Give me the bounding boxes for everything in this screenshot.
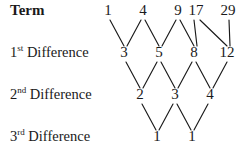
connector-line — [142, 104, 156, 130]
row-label-suffix: Difference — [23, 44, 88, 60]
connector-line — [161, 62, 175, 88]
connector-line — [126, 62, 140, 88]
value-cell: 1 — [153, 129, 161, 144]
value-cell: 8 — [190, 45, 198, 60]
value-cell: 12 — [220, 45, 235, 60]
value-cell: 2 — [136, 87, 144, 102]
value-cell: 1 — [104, 3, 112, 18]
row-label-ordinal: nd — [17, 85, 26, 95]
connector-line — [178, 62, 192, 88]
connector-line — [127, 20, 141, 46]
row-label-2: 2nd Difference — [10, 87, 92, 102]
connector-line — [213, 62, 227, 88]
value-cell: 17 — [189, 3, 204, 18]
connector-line — [162, 20, 176, 46]
connector-line — [177, 104, 191, 130]
value-cell: 3 — [120, 45, 128, 60]
row-label-suffix: Difference — [26, 86, 91, 102]
connector-line — [159, 104, 173, 130]
value-cell: 4 — [206, 87, 214, 102]
row-label-1: 1st Difference — [10, 45, 89, 60]
value-cell: 4 — [139, 3, 147, 18]
difference-table-diagram: Term1st Difference2nd Difference3rd Diff… — [0, 0, 246, 154]
connector-line — [143, 62, 157, 88]
value-cell: 29 — [221, 3, 236, 18]
connector-line — [110, 20, 124, 46]
row-label-text: Term — [10, 2, 44, 18]
connector-line — [194, 104, 208, 130]
row-label-3: 3rd Difference — [10, 129, 90, 144]
value-cell: 5 — [155, 45, 163, 60]
connector-line — [200, 20, 227, 46]
connector-line — [145, 20, 159, 46]
connector-line — [194, 20, 197, 46]
row-label-0: Term — [10, 3, 44, 18]
row-label-suffix: Difference — [25, 128, 90, 144]
value-cell: 9 — [174, 3, 182, 18]
connector-line — [196, 62, 210, 88]
connector-line — [180, 20, 194, 46]
row-label-ordinal: rd — [17, 127, 24, 137]
connector-line — [229, 20, 230, 46]
value-cell: 1 — [188, 129, 196, 144]
value-cell: 3 — [171, 87, 179, 102]
